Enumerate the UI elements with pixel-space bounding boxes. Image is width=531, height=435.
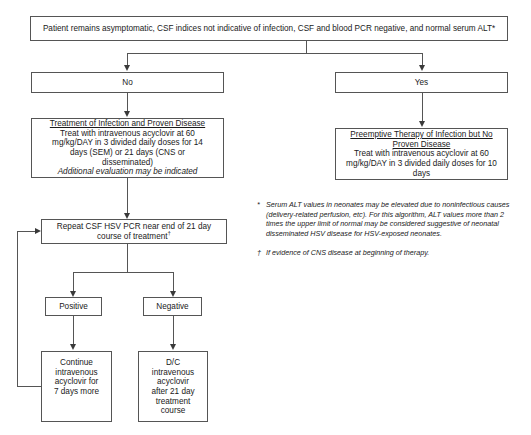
- treatment-line-2: mg/kg/DAY in 3 divided daily doses for 1…: [35, 138, 220, 148]
- preemptive-line-1: Treat with intravenous acyclovir at 60: [339, 149, 504, 159]
- criteria-text: Patient remains asymptomatic, CSF indice…: [31, 24, 507, 34]
- connector-result-split: [73, 272, 173, 273]
- discontinue-line-6: course: [139, 406, 207, 416]
- connector-to-negative: [173, 272, 174, 292]
- branch-no-box: No: [31, 72, 224, 93]
- branch-yes-label: Yes: [336, 78, 507, 88]
- discontinue-line-5: treatment: [139, 397, 207, 407]
- result-negative-box: Negative: [143, 297, 202, 316]
- connector-no-to-treatment: [127, 93, 128, 112]
- preemptive-heading-line-2: Proven Disease: [339, 140, 504, 150]
- footnote-asterisk-text: Serum ALT values in neonates may be elev…: [266, 200, 509, 238]
- treatment-line-4: disseminated): [35, 158, 220, 168]
- connector-repeat-stem: [127, 244, 128, 272]
- result-positive-box: Positive: [45, 297, 102, 316]
- arrowhead-no-to-treatment: [124, 111, 130, 117]
- discontinue-line-2: intravenous: [139, 368, 207, 378]
- connector-criteria-split: [127, 53, 422, 54]
- treatment-line-3: days (SEM) or 21 days (CNS or: [35, 148, 220, 158]
- arrowhead-to-no: [124, 65, 130, 71]
- repeat-pcr-line-2: course of treatment†: [42, 232, 226, 242]
- connector-treatment-to-repeat: [127, 178, 128, 214]
- treatment-note: Additional evaluation may be indicated: [35, 167, 220, 177]
- branch-yes-box: Yes: [335, 72, 508, 93]
- result-negative-label: Negative: [144, 302, 201, 312]
- treatment-line-1: Treat with intravenous acyclovir at 60: [35, 129, 220, 139]
- feedback-loop-vertical-segment: [17, 231, 18, 387]
- connector-negative-to-discontinue: [173, 316, 174, 345]
- preemptive-line-2: mg/kg/DAY in 3 divided daily doses for 1…: [339, 159, 504, 169]
- preemptive-line-3: days: [339, 169, 504, 179]
- arrowhead-negative-to-discontinue: [170, 344, 176, 350]
- continue-treatment-box: Continue intravenous acyclovir for 7 day…: [41, 351, 112, 422]
- footnote-dagger: † If evidence of CNS disease at beginnin…: [257, 248, 516, 258]
- feedback-loop-bottom-segment: [17, 386, 41, 387]
- repeat-pcr-box: Repeat CSF HSV PCR near end of 21 day co…: [41, 219, 227, 244]
- result-positive-label: Positive: [46, 302, 101, 312]
- repeat-pcr-line-1: Repeat CSF HSV PCR near end of 21 day: [42, 222, 226, 232]
- connector-positive-to-continue: [73, 316, 74, 345]
- footnote-dagger-text: If evidence of CNS disease at beginning …: [266, 248, 429, 257]
- continue-line-4: 7 days more: [42, 387, 111, 397]
- discontinue-line-3: acyclovir: [139, 377, 207, 387]
- repeat-pcr-line-2-text: course of treatment: [97, 232, 168, 241]
- arrowhead-feedback-loop: [35, 228, 41, 234]
- branch-no-label: No: [32, 78, 223, 88]
- treatment-box: Treatment of Infection and Proven Diseas…: [31, 118, 224, 178]
- footnote-asterisk-marker: *: [257, 200, 260, 210]
- continue-line-3: acyclovir for: [42, 377, 111, 387]
- flowchart-canvas: Patient remains asymptomatic, CSF indice…: [0, 0, 531, 435]
- continue-line-2: intravenous: [42, 368, 111, 378]
- repeat-pcr-dagger-icon: †: [168, 229, 171, 236]
- treatment-heading: Treatment of Infection and Proven Diseas…: [35, 119, 220, 129]
- connector-criteria-stem: [306, 41, 307, 53]
- preemptive-box: Preemptive Therapy of Infection but No P…: [335, 128, 508, 180]
- discontinue-line-1: D/C: [139, 358, 207, 368]
- connector-yes-to-preemptive: [422, 93, 423, 122]
- criteria-box: Patient remains asymptomatic, CSF indice…: [30, 16, 508, 41]
- discontinue-line-4: after 21 day: [139, 387, 207, 397]
- connector-to-positive: [73, 272, 74, 292]
- preemptive-heading-line-1: Preemptive Therapy of Infection but No: [339, 130, 504, 140]
- feedback-loop-top-segment: [17, 231, 35, 232]
- continue-line-1: Continue: [42, 358, 111, 368]
- discontinue-treatment-box: D/C intravenous acyclovir after 21 day t…: [138, 351, 208, 422]
- arrowhead-to-yes: [419, 65, 425, 71]
- footnote-dagger-marker: †: [257, 248, 261, 258]
- footnotes-block: * Serum ALT values in neonates may be el…: [257, 200, 516, 258]
- arrowhead-positive-to-continue: [70, 344, 76, 350]
- footnote-asterisk: * Serum ALT values in neonates may be el…: [257, 200, 516, 239]
- arrowhead-yes-to-preemptive: [419, 121, 425, 127]
